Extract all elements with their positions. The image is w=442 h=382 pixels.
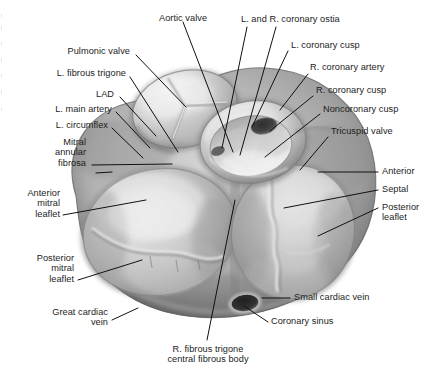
label-small-cardiac-vein: Small cardiac vein: [294, 292, 369, 302]
label-posterior-mitral-leaflet: Posterior mitral leaflet: [14, 253, 74, 284]
label-lad: LAD: [50, 89, 114, 99]
label-l-fibrous-trigone: L. fibrous trigone: [10, 68, 126, 78]
scan-artifacts: [1, 14, 2, 111]
label-posterior-leaflet: Posterior leaflet: [382, 202, 419, 223]
label-r-coronary-cusp: R. coronary cusp: [316, 85, 386, 95]
label-r-fibrous-trigone: R. fibrous trigone central fibrous body: [133, 344, 283, 365]
label-l-circumflex: L. circumflex: [18, 120, 108, 130]
figure-container: Aortic valve L. and R. coronary ostia L.…: [0, 0, 442, 382]
label-pulmonic-valve: Pulmonic valve: [26, 46, 130, 56]
label-tricuspid-valve: Tricuspid valve: [331, 126, 393, 136]
label-coronary-ostia: L. and R. coronary ostia: [241, 14, 340, 24]
label-great-cardiac-vein: Great cardiac vein: [20, 307, 108, 328]
label-aortic-valve: Aortic valve: [143, 13, 223, 23]
label-septal: Septal: [382, 184, 408, 194]
label-anterior: Anterior: [382, 166, 415, 176]
label-mitral-annular-fibrosa: Mitral annular fibrosa: [18, 137, 86, 168]
label-noncoronary-cusp: Noncoronary cusp: [323, 104, 398, 114]
leader-great-cardiac-vein: [112, 308, 138, 320]
label-coronary-sinus: Coronary sinus: [271, 316, 334, 326]
label-l-coronary-cusp: L. coronary cusp: [291, 40, 360, 50]
label-l-main-artery: L. main artery: [20, 104, 112, 114]
label-anterior-mitral-leaflet: Anterior mitral leaflet: [4, 188, 60, 219]
label-r-coronary-artery: R. coronary artery: [310, 62, 384, 72]
